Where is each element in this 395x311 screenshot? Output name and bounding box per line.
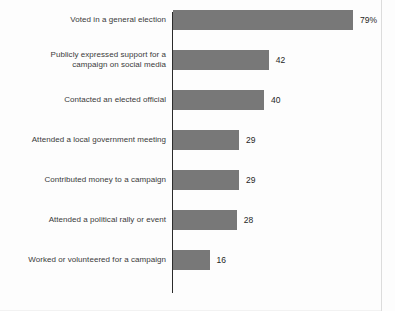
bar-category-label: Voted in a general election: [8, 15, 166, 26]
table-row: Voted in a general election 79%: [0, 0, 381, 40]
bar-category-label: Contacted an elected official: [8, 95, 166, 106]
bar-category-label: Publicly expressed support for a campaig…: [8, 50, 166, 71]
bar-value-label: 40: [271, 96, 280, 105]
bar-value-label: 29: [246, 136, 255, 145]
bar-track: 42: [173, 50, 285, 70]
table-row: Attended a political rally or event 28: [0, 200, 381, 240]
table-row: Worked or volunteered for a campaign 16: [0, 240, 381, 280]
bar-track: 28: [173, 210, 253, 230]
bar-track: 29: [173, 130, 256, 150]
bar-track: 29: [173, 170, 256, 190]
chart-frame-border-right: [381, 0, 382, 311]
bar-track: 40: [173, 90, 281, 110]
bar-category-label: Attended a political rally or event: [8, 215, 166, 226]
bar-category-label: Worked or volunteered for a campaign: [8, 255, 166, 266]
bar-track: 79%: [173, 10, 377, 30]
bar-rect: [173, 50, 269, 70]
bar-rect: [173, 250, 210, 270]
bar-value-label: 28: [244, 216, 253, 225]
bar-rect: [173, 210, 237, 230]
bar-chart-figure: Voted in a general election 79% Publicly…: [0, 0, 395, 311]
bar-category-label: Contributed money to a campaign: [8, 175, 166, 186]
table-row: Attended a local government meeting 29: [0, 120, 381, 160]
bar-value-label: 16: [217, 256, 226, 265]
bar-rect: [173, 10, 353, 30]
bar-value-label: 29: [246, 176, 255, 185]
table-row: Contributed money to a campaign 29: [0, 160, 381, 200]
table-row: Contacted an elected official 40: [0, 80, 381, 120]
table-row: Publicly expressed support for a campaig…: [0, 40, 381, 80]
bar-value-label: 79%: [360, 16, 377, 25]
bar-rect: [173, 130, 239, 150]
bar-category-label: Attended a local government meeting: [8, 135, 166, 146]
bar-value-label: 42: [276, 56, 285, 65]
bar-rect: [173, 170, 239, 190]
bar-rect: [173, 90, 264, 110]
plot-area: Voted in a general election 79% Publicly…: [0, 0, 381, 311]
bar-track: 16: [173, 250, 226, 270]
